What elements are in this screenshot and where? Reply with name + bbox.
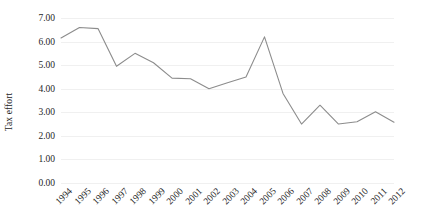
y-tick-label-1.00: 1.00	[21, 154, 55, 164]
y-tick-label-2.00: 2.00	[21, 131, 55, 141]
y-tick-label-7.00: 7.00	[21, 13, 55, 23]
y-tick-label-6.00: 6.00	[21, 37, 55, 47]
y-tick-label-0.00: 0.00	[21, 178, 55, 188]
series-line-tax-effort	[61, 18, 394, 183]
gridline-0	[61, 183, 394, 184]
y-tick-label-4.00: 4.00	[21, 84, 55, 94]
plot-area	[61, 18, 394, 183]
y-axis-tick-labels: 0.001.002.003.004.005.006.007.00	[15, 0, 55, 224]
line-chart: Tax effort 0.001.002.003.004.005.006.007…	[0, 0, 422, 224]
y-tick-label-5.00: 5.00	[21, 60, 55, 70]
x-axis-tick-labels: 1994199519961997199819992000200120022003…	[61, 186, 401, 224]
y-tick-label-3.00: 3.00	[21, 107, 55, 117]
